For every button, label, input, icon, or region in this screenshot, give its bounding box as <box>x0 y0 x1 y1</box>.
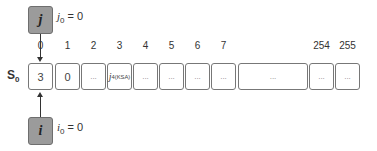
state-label: S0 <box>7 68 19 84</box>
j-initial-label: j0 = 0 <box>57 10 83 25</box>
state-cell-6: ... <box>185 63 210 90</box>
index-label: 6 <box>185 40 210 51</box>
state-cell-gap: ... <box>238 63 308 90</box>
index-label: 254 <box>309 40 334 51</box>
index-label: 4 <box>133 40 158 51</box>
i-arrow-line <box>40 96 41 117</box>
index-label: 7 <box>211 40 236 51</box>
j-symbol: j <box>39 12 43 28</box>
state-cell-1: 0 <box>55 63 80 90</box>
cell-sub: 4(KSA) <box>111 74 130 80</box>
i-initial-label: i0 = 0 <box>57 121 83 136</box>
j-pointer-box: j <box>28 6 53 34</box>
state-sub: 0 <box>15 75 19 84</box>
state-cell-255: ... <box>335 63 360 90</box>
index-label: 2 <box>81 40 106 51</box>
i-symbol: i <box>39 123 43 139</box>
state-cell-254: ... <box>309 63 334 90</box>
j-arrow-head-icon <box>37 57 43 62</box>
index-label: 3 <box>107 40 132 51</box>
state-cell-4: ... <box>133 63 158 90</box>
state-cell-0: 3 <box>28 63 53 90</box>
j-label-value: = 0 <box>65 10 84 22</box>
state-name: S <box>7 68 15 82</box>
index-label: 1 <box>55 40 80 51</box>
i-label-value: = 0 <box>65 121 84 133</box>
state-cell-3: j4(KSA) <box>107 63 132 90</box>
index-label: 5 <box>159 40 184 51</box>
i-pointer-box: i <box>28 117 53 145</box>
index-label: 0 <box>28 40 53 51</box>
state-cell-2: ... <box>81 63 106 90</box>
state-cell-7: ... <box>211 63 236 90</box>
state-cell-5: ... <box>159 63 184 90</box>
index-label: 255 <box>335 40 360 51</box>
